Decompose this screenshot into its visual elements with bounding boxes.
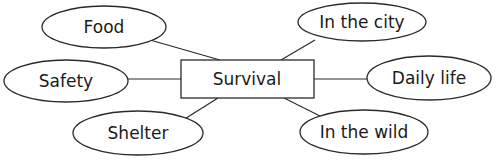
edge-survival-in-the-wild [284, 98, 322, 117]
node-shelter: Shelter [73, 111, 203, 155]
node-shelter-label: Shelter [108, 123, 169, 143]
node-in-the-city: In the city [298, 3, 426, 41]
node-safety: Safety [4, 60, 128, 102]
node-in-the-wild: In the wild [300, 110, 428, 154]
node-safety-label: Safety [39, 71, 93, 91]
node-survival-label: Survival [213, 69, 282, 89]
node-survival: Survival [181, 60, 314, 98]
node-food: Food [42, 6, 166, 48]
mind-map-diagram: Food In the city Safety Survival Daily l… [0, 0, 497, 161]
node-in-the-city-label: In the city [319, 12, 404, 32]
node-in-the-wild-label: In the wild [320, 122, 409, 142]
edge-survival-food [150, 40, 220, 60]
edge-survival-in-the-city [281, 40, 315, 60]
edge-survival-shelter [183, 98, 218, 120]
node-food-label: Food [84, 17, 125, 37]
node-daily-life: Daily life [367, 56, 491, 100]
node-daily-life-label: Daily life [392, 68, 466, 88]
